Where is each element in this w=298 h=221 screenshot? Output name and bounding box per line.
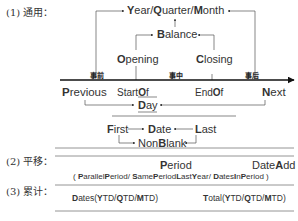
node-previous: Previous <box>62 86 107 98</box>
node-opening: Opening <box>117 53 159 65</box>
node-endof: EndOf <box>195 87 223 98</box>
shift-period: Period <box>160 159 192 171</box>
node-balance: Balance <box>157 28 197 40</box>
section-shift-label: (2) 平移： <box>6 153 53 168</box>
phase-before: 事前 <box>90 70 104 80</box>
node-startof: StartOf <box>117 87 149 98</box>
phase-after: 事后 <box>245 70 259 80</box>
section-cumulative-label: (3) 累计： <box>6 183 53 198</box>
node-nonblank: NonBlank <box>138 137 186 149</box>
node-last: Last <box>195 123 216 135</box>
cumulative-dates: Dates(YTD/QTD/MTD) <box>72 193 158 203</box>
cumulative-total: Total(YTD/QTD/MTD) <box>203 193 286 203</box>
node-date: Date <box>148 123 171 135</box>
shift-dateadd: DateAdd <box>252 159 295 171</box>
shift-period-functions: ( ParallelPeriod/ SamePeriodLastYear/ Da… <box>73 172 269 181</box>
node-first: First <box>107 123 128 135</box>
phase-during: 事中 <box>169 70 183 80</box>
section-general-label: (1) 通用： <box>6 4 53 19</box>
node-day: Day <box>138 99 158 111</box>
node-year-quarter-month: Year/Quarter/Month <box>127 4 224 16</box>
node-closing: Closing <box>196 53 233 65</box>
node-next: Next <box>262 86 286 98</box>
